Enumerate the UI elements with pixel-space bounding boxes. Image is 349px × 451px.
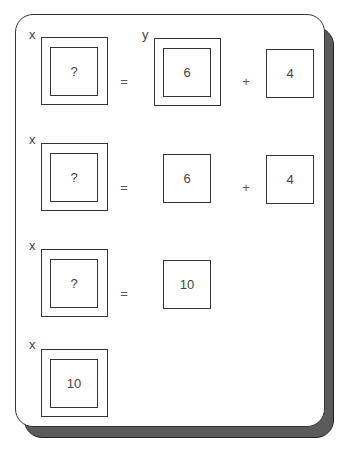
variable-box-x: ?	[41, 143, 108, 211]
literal-box: 4	[266, 49, 314, 98]
variable-label-x: x	[29, 239, 36, 252]
variable-label-x: x	[29, 338, 36, 351]
value-box: ?	[50, 153, 98, 202]
plus-sign: +	[240, 75, 252, 88]
variable-label-x: x	[29, 133, 36, 146]
value-box: ?	[50, 259, 98, 308]
value-box: 10	[50, 359, 98, 408]
variable-label-x: x	[29, 28, 36, 41]
literal-box: 4	[266, 155, 314, 204]
variable-box-y: 6	[154, 38, 221, 106]
plus-sign: +	[240, 181, 252, 194]
variable-box-x: 10	[41, 349, 108, 417]
equals-sign: =	[118, 287, 130, 300]
literal-box: 6	[163, 154, 211, 203]
value-box: 6	[163, 48, 211, 97]
literal-box: 10	[163, 260, 211, 309]
variable-box-x: ?	[41, 249, 108, 317]
value-box: ?	[50, 47, 98, 96]
variable-box-x: ?	[41, 37, 108, 105]
equals-sign: =	[118, 75, 130, 88]
variable-label-y: y	[142, 28, 149, 41]
equals-sign: =	[118, 181, 130, 194]
